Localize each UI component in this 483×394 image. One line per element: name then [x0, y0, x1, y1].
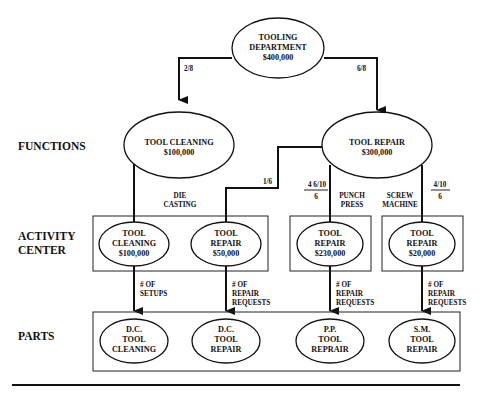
svg-text:REPAIR: REPAIR — [211, 345, 242, 354]
function-tool-cleaning: TOOL CLEANING $100,000 — [124, 112, 234, 178]
svg-text:REQUESTS: REQUESTS — [336, 299, 374, 307]
svg-text:REPAIR: REPAIR — [211, 239, 242, 248]
ratio-root-cleaning: 2/8 — [184, 65, 194, 73]
function-tool-repair: TOOL REPAIR $300,000 — [322, 112, 432, 178]
svg-text:REPRAIR: REPRAIR — [311, 345, 348, 354]
svg-text:4 6/10: 4 6/10 — [308, 181, 327, 189]
svg-text:REPAIR: REPAIR — [315, 239, 346, 248]
part-4: S.M. TOOL REPAIR — [389, 319, 455, 363]
svg-text:REPAIR: REPAIR — [407, 239, 438, 248]
svg-text:TOOL: TOOL — [122, 335, 146, 344]
function-cleaning-amount: $100,000 — [164, 148, 195, 157]
svg-text:TOOL: TOOL — [214, 229, 238, 238]
svg-text:$230,000: $230,000 — [315, 249, 346, 258]
svg-text:$100,000: $100,000 — [119, 249, 150, 258]
svg-text:REPAIR: REPAIR — [336, 290, 364, 298]
svg-text:# OF: # OF — [336, 281, 352, 289]
svg-text:TOOL: TOOL — [214, 335, 238, 344]
svg-text:6: 6 — [314, 193, 318, 201]
label-machine: MACHINE — [382, 201, 418, 209]
root-node-tooling-department: TOOLING DEPARTMENT $400,000 — [232, 18, 324, 78]
svg-text:TOOL: TOOL — [122, 229, 146, 238]
svg-text:TOOL: TOOL — [410, 335, 434, 344]
part-3: P.P. TOOL REPRAIR — [296, 319, 364, 363]
label-casting: CASTING — [164, 201, 197, 209]
svg-text:SETUPS: SETUPS — [140, 290, 167, 298]
svg-text:$20,000: $20,000 — [409, 249, 436, 258]
svg-text:D.C.: D.C. — [218, 325, 234, 334]
ratio-die-casting: 1/6 — [263, 178, 273, 186]
fraction-punch-press: 4 6/10 6 — [304, 181, 328, 201]
driver-4: # OF REPAIR REQUESTS — [428, 281, 466, 307]
svg-text:# OF: # OF — [428, 281, 444, 289]
svg-text:S.M.: S.M. — [414, 325, 430, 334]
svg-text:# OF: # OF — [140, 281, 156, 289]
svg-text:REPAIR: REPAIR — [407, 345, 438, 354]
activity-center-2: TOOL REPAIR $50,000 — [191, 222, 261, 266]
svg-text:REQUESTS: REQUESTS — [428, 299, 466, 307]
part-2: D.C. TOOL REPAIR — [192, 319, 260, 363]
part-1: D.C. TOOL CLEANING — [100, 319, 168, 363]
function-repair-title: TOOL REPAIR — [349, 138, 405, 147]
svg-text:CLEANING: CLEANING — [112, 239, 157, 248]
label-screw: SCREW — [387, 192, 414, 200]
svg-text:# OF: # OF — [232, 281, 248, 289]
svg-text:REQUESTS: REQUESTS — [232, 299, 270, 307]
svg-text:REPAIR: REPAIR — [232, 290, 260, 298]
function-repair-amount: $300,000 — [362, 148, 393, 157]
row-label-activity: ACTIVITY — [18, 230, 76, 242]
root-amount: $400,000 — [263, 53, 294, 62]
svg-text:D.C.: D.C. — [126, 325, 142, 334]
driver-2: # OF REPAIR REQUESTS — [232, 281, 270, 307]
row-label-center: CENTER — [18, 244, 67, 256]
svg-text:TOOL: TOOL — [410, 229, 434, 238]
svg-text:TOOL: TOOL — [318, 335, 342, 344]
driver-3: # OF REPAIR REQUESTS — [336, 281, 374, 307]
svg-text:4/10: 4/10 — [434, 181, 447, 189]
function-cleaning-title: TOOL CLEANING — [144, 138, 214, 147]
root-title-line1: TOOLING — [259, 33, 299, 42]
activity-center-4: TOOL REPAIR $20,000 — [389, 222, 455, 266]
ratio-root-repair: 6/8 — [357, 65, 367, 73]
activity-based-costing-diagram: TOOLING DEPARTMENT $400,000 2/8 6/8 FUNC… — [0, 0, 483, 394]
svg-text:6: 6 — [438, 193, 442, 201]
fraction-screw-machine: 4/10 6 — [431, 181, 450, 201]
label-punch: PUNCH — [339, 192, 365, 200]
row-label-functions: FUNCTIONS — [18, 140, 86, 152]
svg-text:REPAIR: REPAIR — [428, 290, 456, 298]
activity-center-1: TOOL CLEANING $100,000 — [99, 222, 169, 266]
label-die: DIE — [174, 192, 187, 200]
svg-text:CLEANING: CLEANING — [112, 345, 157, 354]
root-title-line2: DEPARTMENT — [249, 43, 307, 52]
connector-root-to-repair — [324, 58, 377, 110]
label-press: PRESS — [341, 201, 363, 209]
activity-center-3: TOOL REPAIR $230,000 — [297, 222, 363, 266]
svg-text:P.P.: P.P. — [324, 325, 337, 334]
row-label-parts: PARTS — [18, 330, 54, 342]
svg-text:$50,000: $50,000 — [213, 249, 240, 258]
svg-text:TOOL: TOOL — [318, 229, 342, 238]
driver-1: # OF SETUPS — [140, 281, 167, 298]
